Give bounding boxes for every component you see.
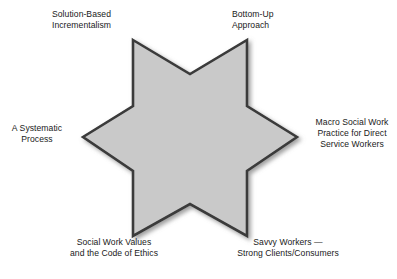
label-social-work-values-code-of-ethics: Social Work Values and the Code of Ethic… (44, 237, 184, 259)
star-polygon (83, 40, 297, 236)
star-diagram: Solution-Based Incrementalism Bottom-Up … (0, 0, 397, 279)
label-savvy-workers-strong-clients: Savvy Workers — Strong Clients/Consumers (210, 237, 366, 259)
label-a-systematic-process: A Systematic Process (2, 123, 72, 145)
label-solution-based-incrementalism: Solution-Based Incrementalism (52, 9, 174, 31)
label-bottom-up-approach: Bottom-Up Approach (232, 9, 352, 31)
label-macro-social-work-practice: Macro Social Work Practice for Direct Se… (306, 117, 397, 151)
